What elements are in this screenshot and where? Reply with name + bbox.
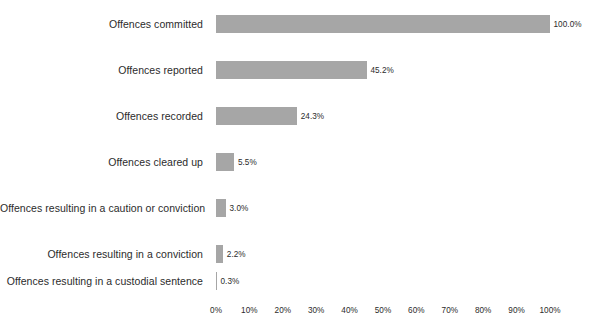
x-tick-label: 50% xyxy=(375,305,392,317)
bar[interactable] xyxy=(216,272,217,290)
funnel-bar-chart: Offences committed 100.0% Offences repor… xyxy=(0,0,597,326)
table-row: Offences reported 45.2% xyxy=(0,61,597,79)
bar-value-label: 24.3% xyxy=(301,111,324,122)
table-row: Offences resulting in a custodial senten… xyxy=(0,272,597,290)
table-row: Offences resulting in a conviction 2.2% xyxy=(0,245,597,263)
bar[interactable] xyxy=(216,61,367,79)
x-tick-label: 30% xyxy=(308,305,325,317)
bar-value-label: 100.0% xyxy=(554,19,582,30)
x-tick-label: 40% xyxy=(341,305,358,317)
bar[interactable] xyxy=(216,107,297,125)
table-row: Offences resulting in a caution or convi… xyxy=(0,199,597,217)
x-tick-label: 70% xyxy=(442,305,459,317)
plot-area: Offences committed 100.0% Offences repor… xyxy=(0,0,597,296)
table-row: Offences recorded 24.3% xyxy=(0,107,597,125)
category-label: Offences resulting in a conviction xyxy=(0,248,203,261)
table-row: Offences committed 100.0% xyxy=(0,15,597,33)
bar-value-label: 2.2% xyxy=(227,249,246,260)
x-tick-label: 100% xyxy=(539,305,560,317)
table-row: Offences cleared up 5.5% xyxy=(0,153,597,171)
x-tick-label: 10% xyxy=(241,305,258,317)
bar-value-label: 3.0% xyxy=(230,203,249,214)
x-tick-label: 80% xyxy=(475,305,492,317)
x-tick-label: 90% xyxy=(508,305,525,317)
bar-value-label: 45.2% xyxy=(370,65,393,76)
x-tick-label: 0% xyxy=(210,305,222,317)
bar[interactable] xyxy=(216,15,550,33)
category-label: Offences reported xyxy=(0,64,203,77)
bar-value-label: 0.3% xyxy=(221,276,240,287)
x-tick-label: 60% xyxy=(408,305,425,317)
category-label: Offences committed xyxy=(0,18,203,31)
x-axis: 0% 10% 20% 30% 40% 50% 60% 70% 80% 90% 1… xyxy=(0,305,597,321)
bar-value-label: 5.5% xyxy=(238,157,257,168)
bar[interactable] xyxy=(216,245,223,263)
bar[interactable] xyxy=(216,199,226,217)
category-label: Offences resulting in a caution or convi… xyxy=(0,202,203,215)
category-label: Offences cleared up xyxy=(0,156,203,169)
x-tick-label: 20% xyxy=(275,305,292,317)
bar[interactable] xyxy=(216,153,234,171)
category-label: Offences recorded xyxy=(0,110,203,123)
category-label: Offences resulting in a custodial senten… xyxy=(0,275,203,288)
